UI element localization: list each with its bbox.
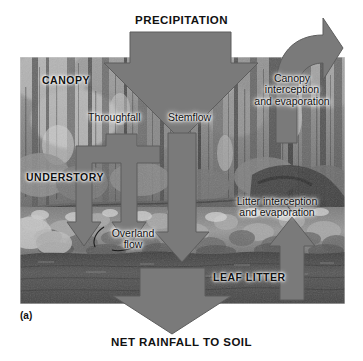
figure-canvas: PRECIPITATION NET RAINFALL TO SOIL CANOP… (0, 0, 363, 361)
leaf-litter-layer-label: LEAF LITTER (213, 272, 286, 283)
canopy-layer-label: CANOPY (42, 75, 90, 86)
litter-interception-label: Litter interception and evaporation (211, 196, 343, 219)
litter-interception-arrow-shape (269, 217, 315, 300)
panel-label: (a) (20, 311, 32, 322)
overland-flow-label: Overland flow (105, 228, 161, 251)
net-rainfall-label: NET RAINFALL TO SOIL (0, 336, 363, 348)
throughfall-label: Throughfall (88, 112, 141, 123)
stemflow-label: Stemflow (168, 112, 211, 123)
understory-layer-label: UNDERSTORY (26, 172, 104, 183)
canopy-interception-label: Canopy interception and evaporation (250, 73, 334, 107)
stemflow-arrow-shape (155, 133, 209, 262)
precipitation-arrow-shape (104, 32, 258, 140)
precipitation-label: PRECIPITATION (0, 14, 363, 26)
